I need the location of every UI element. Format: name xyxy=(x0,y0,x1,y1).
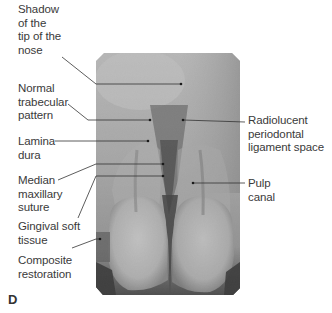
label-median-maxillary-suture: Median maxillary suture xyxy=(18,174,62,215)
panel-letter: D xyxy=(8,292,17,307)
label-pdl-space: Radiolucent periodontal ligament space xyxy=(248,114,324,155)
label-trabecular-pattern: Normal trabecular pattern xyxy=(18,82,68,123)
film xyxy=(95,50,240,295)
label-gingival-soft-tissue: Gingival soft tissue xyxy=(18,220,80,247)
radiograph-figure: Shadow of the tip of the nose Normal tra… xyxy=(0,0,332,313)
label-lamina-dura: Lamina dura xyxy=(18,135,55,162)
label-composite-restoration: Composite restoration xyxy=(18,254,72,281)
label-shadow-nose: Shadow of the tip of the nose xyxy=(18,3,61,57)
label-pulp-canal: Pulp canal xyxy=(248,177,275,204)
